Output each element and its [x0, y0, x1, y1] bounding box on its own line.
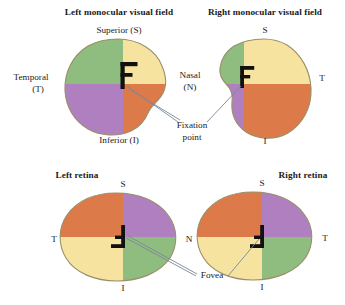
lvf-quadrant-upper-left	[55, 30, 123, 84]
label-inferior-right-field: I	[263, 137, 266, 147]
title-left-retina: Left retina	[55, 171, 98, 181]
label-inferior-left-field: Inferior (I)	[99, 136, 139, 146]
label-fixation-point-line1: Fixation	[177, 121, 208, 131]
rr-quadrant-upper-left	[192, 185, 262, 237]
label-nasal-left-field-abbr: (N)	[184, 83, 197, 93]
title-right-retina: Right retina	[279, 171, 328, 181]
label-superior-right-field: S	[262, 26, 267, 36]
label-fixation-point-line2: point	[183, 133, 202, 143]
rvf-quadrant-upper-right	[244, 30, 316, 84]
label-superior-left-retina: S	[120, 180, 125, 190]
title-right-visual-field: Right monocular visual field	[208, 8, 322, 18]
label-superior-left-field: Superior (S)	[96, 26, 141, 36]
lr-quadrant-upper-right	[123, 185, 185, 237]
rvf-quadrant-lower-left	[215, 84, 244, 146]
rr-quadrant-upper-right	[262, 185, 318, 237]
label-nasal-retina: N	[186, 235, 193, 245]
label-inferior-right-retina: I	[260, 283, 263, 293]
rr-quadrant-lower-right	[262, 237, 318, 287]
diagram-canvas	[0, 0, 345, 305]
label-fovea: Fovea	[201, 271, 223, 281]
title-left-visual-field: Left monocular visual field	[65, 8, 173, 18]
label-inferior-left-retina: I	[121, 284, 124, 294]
label-temporal-right-field: T	[319, 74, 325, 84]
label-temporal-left-field-abbr: (T)	[32, 85, 44, 95]
label-temporal-left-field: Temporal	[13, 73, 48, 83]
label-superior-right-retina: S	[259, 179, 264, 189]
rvf-quadrant-upper-left	[215, 30, 244, 84]
visual-field-retina-diagram: Left monocular visual field Right monocu…	[0, 0, 345, 305]
label-nasal-left-field: Nasal	[180, 71, 201, 81]
right-visual-field-shape	[215, 30, 316, 146]
left-visual-field-shape	[55, 30, 181, 146]
label-temporal-right-retina: T	[322, 234, 328, 244]
label-temporal-left-retina: T	[51, 235, 57, 245]
